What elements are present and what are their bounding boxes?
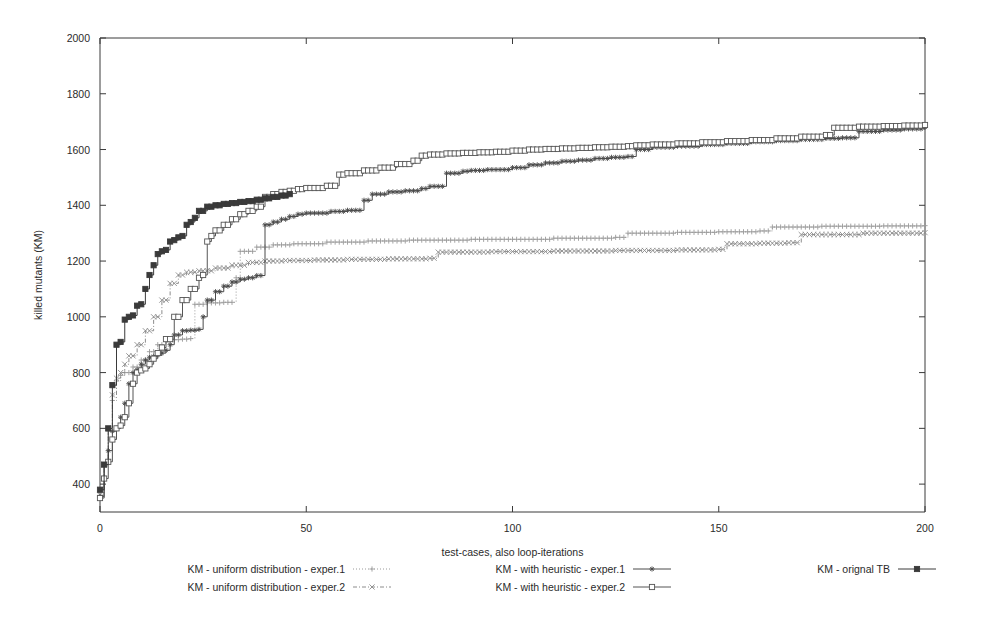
marker-square-filled	[110, 383, 115, 388]
y-tick-label: 400	[72, 478, 90, 490]
marker-star	[184, 328, 189, 333]
marker-square-filled	[151, 263, 156, 268]
marker-star	[836, 136, 841, 141]
marker-square-open	[828, 132, 833, 137]
legend-label: KM - orignal TB	[817, 563, 890, 575]
marker-star	[852, 135, 857, 140]
marker-square-filled	[106, 426, 111, 431]
marker-star	[649, 566, 654, 571]
marker-star	[399, 189, 404, 194]
marker-square-filled	[118, 339, 123, 344]
y-tick-label: 1800	[67, 88, 91, 100]
y-tick-label: 1000	[67, 311, 91, 323]
y-tick-label: 600	[72, 422, 90, 434]
chart-canvas: 050100150200 400600800100012001400160018…	[0, 0, 981, 620]
y-tick-label: 2000	[67, 32, 91, 44]
y-tick-label: 1600	[67, 144, 91, 156]
marker-star	[196, 327, 201, 332]
y-tick-label: 800	[72, 367, 90, 379]
marker-square-open	[168, 337, 173, 342]
marker-star	[572, 159, 577, 164]
x-tick-label: 50	[300, 522, 312, 534]
marker-square-open	[209, 233, 214, 238]
marker-square-open	[130, 381, 135, 386]
marker-square-open	[151, 356, 156, 361]
legend-label: KM - with heuristic - exper.2	[495, 581, 625, 593]
y-tick-label: 1200	[67, 255, 91, 267]
marker-star	[258, 273, 263, 278]
marker-square-open	[258, 204, 263, 209]
marker-star	[234, 279, 239, 284]
marker-star	[283, 217, 288, 222]
marker-star	[341, 209, 346, 214]
marker-square-filled	[147, 272, 152, 277]
marker-star	[605, 156, 610, 161]
marker-square-filled	[102, 462, 107, 467]
marker-square-open	[97, 495, 102, 500]
marker-square-filled	[139, 302, 144, 307]
marker-square-filled	[130, 313, 135, 318]
marker-square-open	[922, 122, 927, 127]
marker-square-open	[184, 297, 189, 302]
marker-square-open	[192, 286, 197, 291]
marker-square-open	[159, 345, 164, 350]
x-tick-label: 0	[97, 522, 103, 534]
marker-star	[465, 169, 470, 174]
marker-square-filled	[287, 192, 292, 197]
marker-square-filled	[192, 215, 197, 220]
legend-label: KM - uniform distribution - exper.1	[187, 563, 345, 575]
marker-star	[366, 198, 371, 203]
legend-label: KM - with heuristic - exper.1	[495, 563, 625, 575]
marker-square-open	[217, 228, 222, 233]
marker-square-open	[225, 222, 230, 227]
chart-background	[0, 0, 981, 620]
x-tick-label: 100	[504, 522, 522, 534]
y-tick-label: 1400	[67, 199, 91, 211]
marker-star	[192, 328, 197, 333]
x-tick-label: 200	[916, 522, 934, 534]
y-axis-title: killed mutants (KM)	[32, 230, 44, 320]
marker-star	[217, 289, 222, 294]
marker-star	[209, 297, 214, 302]
marker-square-open	[122, 415, 127, 420]
marker-star	[630, 154, 635, 159]
marker-square-open	[333, 183, 338, 188]
marker-square-open	[155, 350, 160, 355]
marker-square-filled	[163, 247, 168, 252]
marker-square-filled	[914, 566, 919, 571]
marker-star	[440, 184, 445, 189]
marker-star	[201, 314, 206, 319]
chart-figure: 050100150200 400600800100012001400160018…	[0, 0, 981, 620]
marker-square-filled	[97, 487, 102, 492]
marker-star	[168, 342, 173, 347]
marker-square-filled	[143, 286, 148, 291]
marker-star	[267, 222, 272, 227]
marker-star	[522, 165, 527, 170]
marker-star	[300, 212, 305, 217]
marker-square-open	[201, 272, 206, 277]
marker-star	[176, 332, 181, 337]
marker-square-open	[118, 423, 123, 428]
marker-square-open	[110, 437, 115, 442]
marker-star	[225, 284, 230, 289]
marker-square-open	[234, 217, 239, 222]
legend-label: KM - uniform distribution - exper.2	[187, 581, 345, 593]
x-tick-label: 150	[710, 522, 728, 534]
marker-square-open	[126, 401, 131, 406]
x-axis-title: test-cases, also loop-iterations	[442, 546, 584, 558]
marker-square-open	[176, 314, 181, 319]
marker-square-filled	[180, 233, 185, 238]
marker-square-open	[147, 362, 152, 367]
marker-square-open	[415, 158, 420, 163]
marker-square-open	[205, 239, 210, 244]
marker-square-open	[649, 584, 654, 589]
